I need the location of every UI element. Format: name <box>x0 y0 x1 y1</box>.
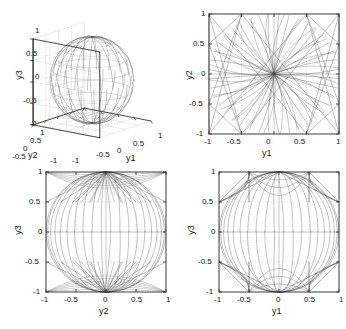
plot-y2-y3-canvas <box>0 165 173 329</box>
plot-y1-y3-canvas <box>173 165 346 329</box>
plot-3d-canvas <box>0 0 173 165</box>
panel-3d-y1-y2-y3: y3 1 0.5 0 -0.5 -1 1 0.5 0 -0.5 -1 y2 -1… <box>0 0 173 165</box>
panel-y1-y3: y3 1 0.5 0 -0.5 -1 -1 -0.5 0 0.5 1 y1 <box>173 165 346 329</box>
panel-y2-y3: y3 1 0.5 0 -0.5 -1 -1 -0.5 0 0.5 1 y2 <box>0 165 173 329</box>
panel-y1-y2: y2 1 0.5 0 -0.5 -1 -1 -0.5 0 0.5 1 y1 <box>173 0 346 165</box>
plot-y1-y2-canvas <box>173 0 346 165</box>
